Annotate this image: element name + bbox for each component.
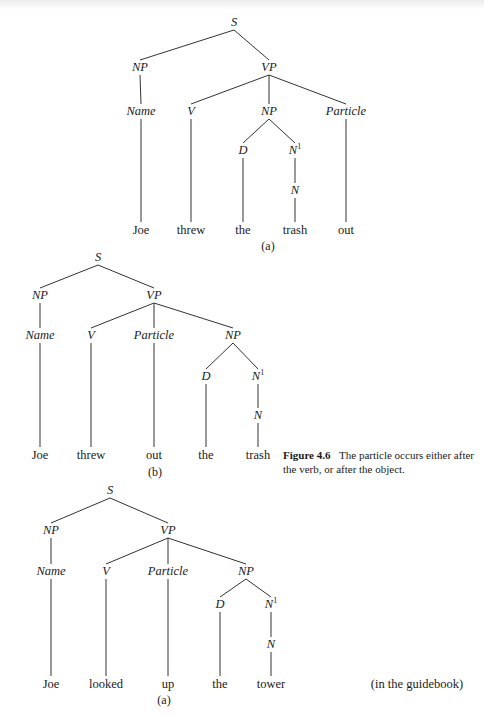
leaf-word: Joe [32, 448, 49, 462]
tree-branch [220, 579, 246, 597]
node-label: NP [225, 328, 241, 342]
node-label: V [102, 564, 110, 578]
node-label: threw [77, 448, 105, 462]
category-node: NP [225, 328, 241, 342]
node-label: Particle [326, 104, 366, 118]
leaf-word: trash [246, 448, 270, 462]
tree-branch [140, 75, 141, 104]
category-node: V [187, 104, 195, 118]
node-label: tower [257, 677, 285, 691]
node-label: D [201, 369, 210, 383]
category-node: N1 [289, 143, 301, 157]
node-label: up [162, 677, 175, 691]
tree-branch [91, 303, 154, 328]
node-label: N [254, 408, 262, 422]
category-node: V [102, 564, 110, 578]
tree-branch [243, 119, 269, 143]
node-label: Joe [43, 677, 60, 691]
node-label: NP [238, 564, 254, 578]
node-label: looked [89, 677, 123, 691]
tree-branch [168, 538, 246, 564]
node-label: NP [261, 104, 277, 118]
node-label: V [187, 104, 195, 118]
figure-label: Figure 4.6 [283, 449, 330, 461]
leaf-word: trash [283, 223, 307, 237]
leaf-word: looked [89, 677, 123, 691]
leaf-word: out [338, 223, 354, 237]
node-superscript: 1 [260, 368, 264, 377]
category-node: V [87, 328, 95, 342]
node-superscript: 1 [297, 142, 301, 151]
node-label: Particle [148, 564, 188, 578]
figure-caption: Figure 4.6 The particle occurs either af… [283, 448, 483, 476]
tree-branch [269, 75, 346, 104]
leaf-word: threw [177, 223, 205, 237]
tree-branch [106, 538, 168, 564]
category-node: S [95, 250, 101, 264]
category-node: NP [43, 523, 59, 537]
category-node: Particle [134, 328, 174, 342]
category-node: VP [160, 523, 175, 537]
node-label: the [235, 223, 250, 237]
category-node: S [107, 483, 113, 497]
node-label: S [95, 250, 101, 264]
category-node: Particle [326, 104, 366, 118]
node-label: out [338, 223, 354, 237]
node-label: S [107, 483, 113, 497]
category-node: N [291, 183, 299, 197]
category-node: NP [132, 60, 148, 74]
category-node: NP [32, 288, 48, 302]
node-label: NP [43, 523, 59, 537]
tree-branch [51, 498, 110, 523]
node-label: Particle [134, 328, 174, 342]
node-label: D [215, 597, 224, 611]
category-node: D [201, 369, 210, 383]
tree-branch [110, 498, 168, 523]
leaf-word: Joe [43, 677, 60, 691]
node-label: VP [160, 523, 175, 537]
category-node: N1 [265, 597, 277, 611]
node-label: Name [36, 564, 65, 578]
node-label: NP [132, 60, 148, 74]
tree-1-edges [140, 30, 346, 222]
leaf-word: threw [77, 448, 105, 462]
node-label: V [87, 328, 95, 342]
tree-branch [154, 303, 233, 328]
category-node: NP [261, 104, 277, 118]
node-superscript: 1 [273, 596, 277, 605]
leaf-word: the [235, 223, 250, 237]
leaf-word: the [212, 677, 227, 691]
category-node: D [238, 143, 247, 157]
tree-subcaption: (a) [157, 693, 170, 708]
node-label: Joe [133, 223, 150, 237]
node-label: threw [177, 223, 205, 237]
node-label: trash [283, 223, 307, 237]
context-note: (in the guidebook) [371, 677, 463, 692]
tree-edges-layer [0, 0, 484, 718]
category-node: N [254, 408, 262, 422]
node-label: N [267, 637, 275, 651]
tree-branch [191, 75, 269, 104]
node-label: trash [246, 448, 270, 462]
tree-branch [269, 119, 295, 143]
tree-subcaption: (a) [261, 239, 274, 254]
category-node: Name [126, 104, 155, 118]
node-label: N [291, 183, 299, 197]
category-node: Particle [148, 564, 188, 578]
leaf-word: Joe [133, 223, 150, 237]
category-node: VP [261, 60, 276, 74]
node-label: NP [32, 288, 48, 302]
tree-branch [233, 343, 258, 369]
category-node: NP [238, 564, 254, 578]
node-label: D [238, 143, 247, 157]
node-label: VP [261, 60, 276, 74]
node-label: Name [126, 104, 155, 118]
tree-branch [206, 343, 233, 369]
tree-branch [246, 579, 271, 597]
node-label: the [198, 448, 213, 462]
category-node: N [267, 637, 275, 651]
leaf-word: out [146, 448, 162, 462]
tree-subcaption: (b) [148, 465, 162, 480]
tree-branch [234, 30, 269, 60]
category-node: Name [36, 564, 65, 578]
